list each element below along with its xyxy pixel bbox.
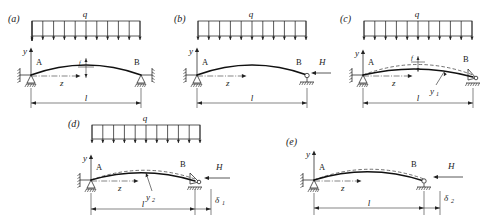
curve-label-c: y 1: [429, 72, 447, 97]
force-label-e: H: [447, 161, 455, 171]
node-label-d-right: B: [180, 159, 186, 169]
support-right-b: [299, 73, 314, 85]
arch-curve-d: [91, 173, 195, 181]
axis-z-label-e: z: [340, 183, 345, 193]
axis-z-label-d: z: [117, 183, 122, 193]
axis-z-label-c: z: [391, 78, 396, 88]
curve-label-d: y 2: [145, 173, 155, 203]
panel-label-b: (b): [174, 13, 186, 25]
load-arrows-a: [31, 21, 142, 40]
reference-curve-e: [314, 169, 424, 180]
curve-label-c-sub: 1: [436, 91, 439, 97]
curve-label-c-text: y: [429, 86, 434, 96]
load-label-c: q: [415, 9, 420, 19]
curve-label-d-text: y: [145, 192, 150, 202]
reference-curve-d: [91, 170, 195, 180]
arch-figure: (a) q: [0, 0, 500, 223]
panel-label-d: (d): [68, 118, 80, 130]
panel-e: (e) y z A B: [283, 105, 498, 223]
axis-y-label-d: y: [82, 153, 87, 163]
axis-y-label-b: y: [188, 46, 193, 56]
force-h-d: H: [204, 162, 230, 180]
support-left-c: [349, 68, 368, 87]
force-label-b: H: [318, 57, 326, 67]
axis-z-c: z: [363, 74, 413, 88]
node-label-b-right: B: [296, 57, 302, 67]
span-label-a: l: [85, 93, 88, 103]
panel-a: (a) q: [0, 0, 168, 118]
force-h-b: H: [311, 57, 331, 75]
support-right-a: [135, 68, 155, 87]
panel-c: (c) q: [332, 0, 500, 118]
span-label-e: l: [368, 198, 371, 208]
axis-y-label-c: y: [354, 48, 359, 58]
arch-curve-e: [314, 172, 424, 181]
panel-label-e: (e): [286, 136, 298, 148]
rise-dimension-a: f: [78, 58, 94, 78]
support-left-d: [77, 173, 96, 192]
axis-z-label-b: z: [225, 78, 230, 88]
axis-z-e: z: [314, 179, 362, 193]
load-block-a: q: [31, 9, 142, 41]
node-label-a-left: A: [36, 57, 43, 67]
load-block-d: q: [91, 113, 202, 143]
curve-label-d-sub: 2: [152, 197, 155, 203]
delta-dimension-e: δ 2: [424, 191, 454, 215]
load-label-a: q: [83, 9, 88, 19]
delta-label-e-sub: 2: [451, 198, 454, 204]
axis-y-a: y: [22, 46, 33, 76]
axis-y-c: y: [354, 48, 365, 76]
delta-label-e: δ: [444, 193, 449, 203]
load-arrows-b: [197, 21, 308, 40]
axis-z-d: z: [91, 179, 139, 193]
node-label-d-left: A: [96, 162, 103, 172]
load-block-b: q: [197, 9, 308, 40]
span-dimension-e: l: [314, 191, 424, 215]
axis-y-e: y: [305, 149, 316, 181]
axis-y-d: y: [82, 153, 93, 181]
node-label-c-right: B: [463, 54, 469, 64]
node-label-c-left: A: [368, 57, 375, 67]
span-label-b: l: [251, 93, 254, 103]
force-label-d: H: [215, 162, 223, 172]
panel-d: (d) q: [60, 105, 260, 223]
axis-z-label-a: z: [59, 78, 64, 88]
force-h-e: H: [433, 161, 463, 179]
node-label-e-left: A: [319, 162, 326, 172]
axis-y-b: y: [188, 46, 199, 76]
span-label-d: l: [142, 199, 145, 209]
arch-curve-b: [197, 65, 307, 75]
axis-y-label-a: y: [22, 46, 27, 56]
node-label-e-right: B: [411, 159, 417, 169]
node-label-b-left: A: [202, 57, 209, 67]
panel-label-c: (c): [340, 13, 352, 25]
support-left-b: [183, 68, 202, 87]
load-label-b: q: [249, 9, 254, 19]
support-left-a: [17, 68, 36, 87]
panel-label-a: (a): [8, 13, 20, 25]
axis-y-label-e: y: [305, 149, 310, 159]
axis-z-b: z: [197, 74, 247, 88]
load-arrows-c: [363, 21, 474, 40]
panel-b: (b) q: [166, 0, 334, 118]
support-left-e: [300, 173, 319, 192]
span-dimension-d: l: [91, 189, 195, 215]
node-label-a-right: B: [134, 57, 140, 67]
load-label-d: q: [143, 113, 148, 123]
load-block-c: q: [363, 9, 474, 40]
rise-label-c: f: [411, 54, 414, 62]
delta-dimension-d: δ 1: [195, 189, 225, 215]
load-arrows-d: [91, 125, 202, 143]
delta-label-d: δ: [215, 195, 220, 205]
support-right-e: [416, 179, 431, 190]
span-label-c: l: [417, 93, 420, 103]
delta-label-d-sub: 1: [222, 200, 225, 206]
axis-z-a: z: [31, 74, 81, 88]
